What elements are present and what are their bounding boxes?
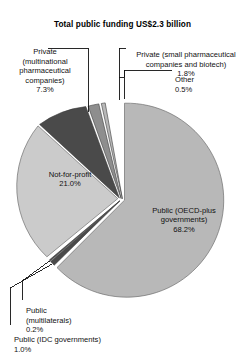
label-not-for-profit-name: Not-for-profit [49,170,92,179]
label-public-oecd-name: Public (OECD-plus governments) [152,206,216,225]
label-private-multinational: Private (multinational pharmaceutical co… [2,38,88,104]
label-public-idc: Public (IDC governments) 1.0% [14,326,174,362]
label-not-for-profit-value: 21.0% [24,179,116,189]
label-public-multilaterals-name: Public (multilaterals) [26,306,72,324]
label-private-multinational-name: Private (multinational pharmaceutical co… [19,47,71,84]
label-public-oecd-value: 68.2% [137,225,231,235]
label-public-oecd: Public (OECD-plus governments) 68.2% [137,196,231,244]
chart-figure: Total public funding US$2.3 billion [0,0,245,362]
label-other-value: 0.5% [175,85,243,94]
label-not-for-profit: Not-for-profit 21.0% [24,160,116,198]
leader-public-multilaterals [22,261,50,300]
label-public-idc-value: 1.0% [14,345,174,354]
leader-private-small [119,48,126,100]
label-public-idc-name: Public (IDC governments) [14,335,101,344]
label-private-multinational-value: 7.3% [2,85,88,94]
label-other: Other 0.5% [175,66,243,104]
label-other-name: Other [175,75,194,84]
